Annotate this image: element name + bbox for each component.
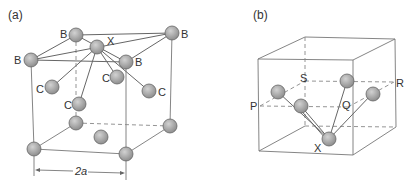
label-b2: B xyxy=(181,28,188,40)
label-c3: C xyxy=(102,72,110,84)
label-s: S xyxy=(300,72,307,84)
atom-face-center xyxy=(94,130,108,144)
label-c4: C xyxy=(158,86,166,98)
panel-a-label: (a) xyxy=(8,8,23,22)
atom-back xyxy=(340,74,354,88)
atom-b1 xyxy=(69,28,83,42)
atom-lower-back-left xyxy=(69,116,83,130)
label-r: R xyxy=(396,77,404,89)
dimension-label: 2a xyxy=(74,165,87,177)
label-q: Q xyxy=(342,99,351,111)
crystal-structure-figure: (a) xyxy=(0,0,411,188)
atom-b4 xyxy=(119,55,133,69)
atom-r-side xyxy=(366,87,380,101)
label-x: X xyxy=(314,142,322,154)
atom-front xyxy=(294,99,308,113)
atom-x xyxy=(90,40,104,54)
label-x: X xyxy=(107,35,115,47)
label-c2: C xyxy=(64,99,72,111)
label-p: P xyxy=(250,100,257,112)
atom-c3 xyxy=(110,70,124,84)
atom-lower-back-right xyxy=(163,119,177,133)
atom-b3 xyxy=(24,53,38,67)
label-c1: C xyxy=(36,83,44,95)
panel-b-label: (b) xyxy=(253,8,268,22)
atom-b2 xyxy=(165,26,179,40)
atom-x xyxy=(322,132,336,146)
label-b1: B xyxy=(60,28,67,40)
atom-bottom-front-right xyxy=(119,147,133,161)
atom-c1 xyxy=(45,80,59,94)
panel-b: (b) xyxy=(250,8,404,155)
atom-p-side xyxy=(271,85,285,99)
label-b4: B xyxy=(135,56,142,68)
dimension-2a: 2a xyxy=(34,156,126,180)
atom-c2 xyxy=(72,97,86,111)
label-b3: B xyxy=(14,54,21,66)
panel-b-bonds xyxy=(278,81,372,139)
atom-bottom-front-left xyxy=(27,142,41,156)
atom-c4 xyxy=(142,84,156,98)
panel-a: (a) xyxy=(8,8,188,180)
